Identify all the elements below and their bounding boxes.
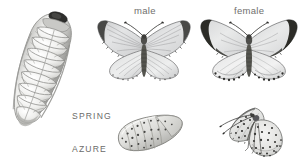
caterpillar	[2, 4, 82, 136]
label-female: female	[234, 5, 264, 17]
label-species-line1: SPRING	[72, 111, 112, 122]
label-species-name: SPRING AZURE	[72, 89, 112, 167]
underside-butterfly	[208, 98, 296, 164]
label-species-line2: AZURE	[72, 144, 112, 155]
female-butterfly	[196, 14, 302, 86]
male-butterfly	[92, 14, 196, 86]
chrysalis	[104, 108, 196, 160]
label-male: male	[134, 5, 156, 17]
illustration-plate: male female SPRING AZURE	[0, 0, 304, 167]
